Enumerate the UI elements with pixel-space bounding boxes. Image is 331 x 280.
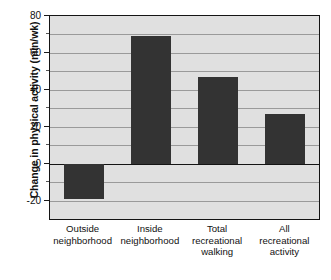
x-axis-label-line: All [245,223,324,235]
y-tick-mark [44,52,49,53]
x-axis-label-line: recreational [245,235,324,247]
y-tick-mark [44,126,49,127]
plot-area [49,15,320,220]
bar [265,114,305,164]
y-tick-mark-minor [46,33,49,34]
y-tick-mark-minor [46,144,49,145]
x-axis-label: Allrecreationalactivity [245,223,324,258]
y-tick-mark [44,15,49,16]
y-tick-mark [44,163,49,164]
bar [64,164,104,199]
y-tick-label: 40 [30,83,41,94]
y-tick-label: 20 [30,120,41,131]
bar [131,36,171,163]
bar-chart-figure: Change in physical activity (min/wk) 806… [0,0,331,280]
y-tick-mark-minor [46,107,49,108]
y-tick-label: 80 [30,10,41,21]
gridline-minor [50,34,319,35]
y-tick-mark [44,89,49,90]
gridline-minor [50,71,319,72]
x-axis-label-line: activity [245,246,324,258]
gridline-major [50,53,319,54]
gridline-major [50,90,319,91]
y-tick-mark-minor [46,181,49,182]
gridline-minor [50,108,319,109]
bar [198,77,238,164]
y-tick-label: 0 [35,157,41,168]
y-tick-label: -20 [27,194,41,205]
y-tick-mark-minor [46,70,49,71]
y-tick-label: 60 [30,46,41,57]
x-axis-category-labels: OutsideneighborhoodInsideneighborhoodTot… [49,223,320,275]
gridline-major [50,201,319,202]
y-tick-mark [44,200,49,201]
y-axis-tick-labels: 806040200-20 [14,15,45,220]
